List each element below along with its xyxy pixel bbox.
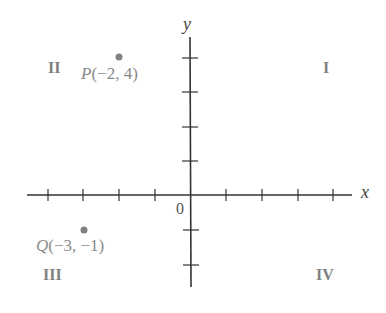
point-p-coords: (−2, 4) [91, 64, 137, 83]
x-axis-label: x [361, 182, 369, 203]
quadrant-label-ii: II [48, 59, 60, 77]
point-q-label: Q(−3, −1) [36, 236, 104, 256]
y-axis-label: y [183, 14, 191, 35]
quadrant-label-i: I [323, 59, 329, 77]
point-p-marker [116, 54, 123, 61]
point-p-label: P(−2, 4) [81, 64, 138, 84]
point-q-name: Q [36, 236, 48, 255]
quadrant-label-iii: III [43, 266, 62, 284]
origin-label: 0 [176, 200, 184, 218]
y-axis [190, 37, 191, 287]
point-q-coords: (−3, −1) [48, 236, 104, 255]
quadrant-label-iv: IV [316, 266, 334, 284]
point-p-name: P [81, 64, 91, 83]
point-q-marker [81, 227, 88, 234]
